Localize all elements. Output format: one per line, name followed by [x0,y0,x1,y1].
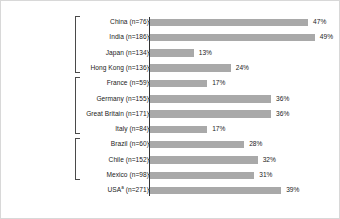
bar-value-label: 31% [259,170,272,181]
bar-row: France (n=59)17% [1,76,339,90]
bar [150,80,207,88]
bar-row: Mexico (n=98)31% [1,168,339,182]
bar-track: 13% [150,49,335,57]
bar-value-label: 24% [236,63,249,74]
category-label: Great Britain (n=171) [39,107,149,121]
bar [150,64,231,72]
chart-container: Asia Europe Latin America China (n=76)47… [0,0,340,219]
bar-row: Italy (n=84)17% [1,122,339,136]
bar-value-label: 28% [249,139,262,150]
bar [150,110,271,118]
bar [150,172,254,180]
bar [150,126,207,134]
category-label: Brazil (n=60) [39,137,149,151]
bar [150,19,308,27]
bar-track: 17% [150,126,335,134]
bar [150,95,271,103]
bar-value-label: 32% [263,155,276,166]
bar-track: 31% [150,172,335,180]
bar-track: 39% [150,187,335,195]
bar-row: Germany (n=155)36% [1,92,339,106]
bar-track: 36% [150,95,335,103]
bar-row: China (n=76)47% [1,15,339,29]
bar [150,34,315,42]
bar-track: 32% [150,156,335,164]
bar-track: 49% [150,34,335,42]
bar-row: Japan (n=134)13% [1,46,339,60]
bar-row: USAa (n=271)39% [1,183,339,197]
category-label: Japan (n=134) [39,46,149,60]
bar-row: Brazil (n=60)28% [1,137,339,151]
bar-track: 36% [150,110,335,118]
bar-value-label: 49% [320,32,333,43]
bar [150,156,258,164]
bar-row: Great Britain (n=171)36% [1,107,339,121]
category-label: Italy (n=84) [39,122,149,136]
bar-value-label: 47% [313,17,326,28]
bar-value-label: 17% [212,78,225,89]
category-label: Chile (n=152) [39,153,149,167]
category-label: Hong Kong (n=136) [39,61,149,75]
bar-track: 24% [150,64,335,72]
category-label: France (n=59) [39,76,149,90]
category-label: China (n=76) [39,15,149,29]
bar-track: 28% [150,141,335,149]
bar-track: 47% [150,19,335,27]
category-label: Germany (n=155) [39,92,149,106]
bar-value-label: 36% [276,109,289,120]
bar-value-label: 36% [276,94,289,105]
bar-row: Hong Kong (n=136)24% [1,61,339,75]
plot-area: Asia Europe Latin America China (n=76)47… [1,1,339,218]
bar-row: Chile (n=152)32% [1,153,339,167]
bar-value-label: 17% [212,124,225,135]
bar-value-label: 13% [199,48,212,59]
bar-row: India (n=186)49% [1,30,339,44]
bar [150,141,244,149]
bar [150,49,194,57]
category-label: USAa (n=271) [39,183,149,197]
category-label: Mexico (n=98) [39,168,149,182]
category-label: India (n=186) [39,30,149,44]
bar-value-label: 39% [286,185,299,196]
bar-track: 17% [150,80,335,88]
bar [150,187,281,195]
